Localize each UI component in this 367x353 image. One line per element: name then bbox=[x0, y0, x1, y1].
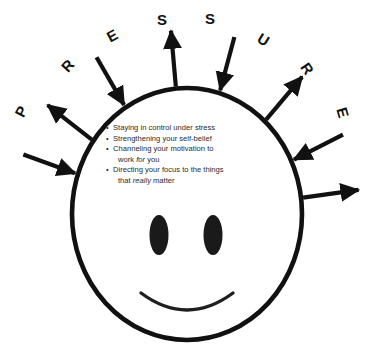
pressure-letter-4: S bbox=[205, 11, 215, 26]
pressure-arrow-r-1 bbox=[48, 105, 92, 139]
pressure-arrow-e-2 bbox=[97, 57, 125, 105]
pressure-arrow-s-3 bbox=[171, 31, 176, 87]
pressure-arrow-e-7 bbox=[303, 190, 358, 198]
bullet-marker-icon: • bbox=[106, 123, 109, 133]
benefit-bullet-line: •Staying in control under stress bbox=[106, 123, 266, 133]
benefit-text-segment: matter bbox=[151, 176, 175, 185]
right-eye bbox=[204, 215, 223, 255]
benefit-text-segment: Strengthening your self-belief bbox=[113, 134, 212, 143]
benefit-text-segment: really bbox=[133, 176, 151, 185]
benefit-bullet-line: work for you bbox=[106, 155, 266, 165]
benefit-text-segment: Directing your focus to the things bbox=[113, 165, 224, 174]
left-eye bbox=[150, 215, 169, 255]
pressure-arrow-u-5 bbox=[266, 77, 302, 120]
pressure-arrow-s-4 bbox=[220, 37, 234, 90]
benefit-text-segment: for bbox=[136, 155, 145, 164]
pressure-letter-3: S bbox=[157, 12, 167, 27]
benefit-text-segment: Channeling your motivation to bbox=[113, 144, 213, 153]
benefit-text-segment: you bbox=[145, 155, 159, 164]
benefit-bullet-line: •Directing your focus to the things bbox=[106, 165, 266, 175]
pressure-arrow-r-6 bbox=[294, 135, 343, 160]
benefit-text-segment: that bbox=[118, 176, 133, 185]
bullet-marker-icon: • bbox=[106, 134, 109, 144]
benefit-bullet-line: that really matter bbox=[106, 176, 266, 186]
pressure-smiley-diagram: •Staying in control under stress•Strengt… bbox=[0, 0, 367, 353]
benefits-bullet-list: •Staying in control under stress•Strengt… bbox=[106, 123, 266, 187]
benefit-text-segment: work bbox=[118, 155, 136, 164]
benefit-bullet-line: •Channeling your motivation to bbox=[106, 144, 266, 154]
bullet-marker-icon: • bbox=[106, 144, 109, 154]
benefit-bullet-line: •Strengthening your self-belief bbox=[106, 134, 266, 144]
benefit-text-segment: Staying in control under stress bbox=[113, 123, 215, 132]
pressure-arrow-p-0 bbox=[23, 154, 75, 173]
bullet-marker-icon: • bbox=[106, 165, 109, 175]
